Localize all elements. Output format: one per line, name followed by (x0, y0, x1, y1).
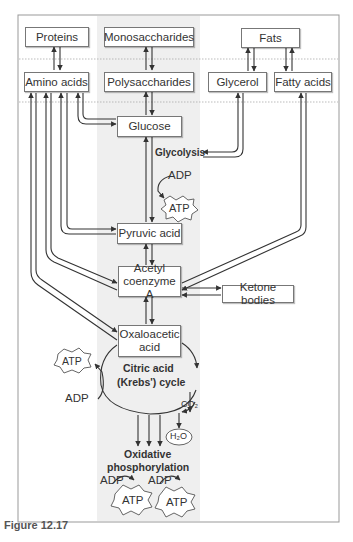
node-fats: Fats (241, 28, 300, 48)
node-fatty-acids: Fatty acids (274, 72, 332, 92)
label-atp-ox2: ATP (166, 496, 188, 508)
label-oxphos-line2: phosphorylation (107, 461, 189, 473)
node-pyruvic-acid: Pyruvic acid (117, 223, 182, 244)
label-atp-glycolysis: ATP (169, 202, 190, 214)
label-adp-ox1: ADP (100, 474, 124, 486)
node-amino-acids: Amino acids (24, 72, 89, 92)
node-proteins: Proteins (25, 27, 89, 47)
node-glucose: Glucose (117, 116, 182, 137)
acetyl-line1: Acetyl (134, 262, 165, 275)
node-acetyl-coa: Acetyl coenzyme A (118, 266, 181, 297)
node-monosaccharides: Monosaccharides (104, 27, 194, 47)
oxaloacetic-line1: Oxaloacetic (119, 328, 179, 341)
label-adp-glycolysis: ADP (168, 169, 192, 181)
node-ketone-bodies: Ketone bodies (222, 285, 294, 303)
node-polysaccharides: Polysaccharides (104, 72, 194, 92)
label-glycolysis: Glycolysis (155, 147, 205, 158)
label-adp-krebs: ADP (65, 392, 89, 404)
label-adp-ox2: ADP (148, 474, 172, 486)
label-krebs-line2: (Krebs') cycle (117, 376, 185, 388)
figure-caption: Figure 12.17 (4, 519, 68, 531)
label-oxphos-line1: Oxidative (124, 448, 171, 460)
label-co2: CO₂ (181, 399, 198, 409)
label-krebs-line1: Citric acid (123, 362, 174, 374)
label-atp-ox1: ATP (122, 494, 144, 506)
label-atp-krebs: ATP (62, 355, 82, 367)
oxaloacetic-line2: acid (139, 341, 160, 354)
node-oxaloacetic-acid: Oxaloacetic acid (118, 325, 181, 357)
label-h2o: H₂O (170, 431, 187, 441)
acetyl-line2: coenzyme A (119, 275, 180, 301)
node-glycerol: Glycerol (208, 72, 267, 92)
